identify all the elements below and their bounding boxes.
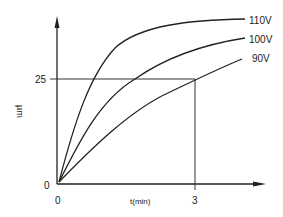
x-origin-label: 0: [55, 195, 61, 206]
y-axis-label: µm: [15, 105, 25, 118]
y-origin-label: 0: [44, 180, 50, 191]
y-tick-25: 25: [35, 74, 47, 85]
legend-110v: 110V: [249, 15, 272, 26]
legend-100v: 100V: [249, 34, 273, 45]
curve-90v: [59, 59, 242, 182]
curve-100v: [59, 38, 245, 182]
chart: µm 25 0 0 t(min) 3 110V 100V 90V: [0, 0, 283, 217]
x-axis-arrow-icon: [253, 182, 266, 187]
legend-90v: 90V: [252, 53, 270, 64]
x-tick-3: 3: [192, 195, 198, 206]
y-axis-arrow-icon: [55, 16, 60, 28]
x-axis-label: t(min): [130, 197, 151, 206]
